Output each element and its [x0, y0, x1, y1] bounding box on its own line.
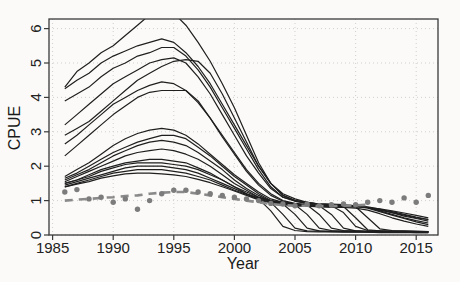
x-tick-label: 2000	[218, 239, 251, 256]
y-tick-label: 0	[27, 231, 44, 239]
model-line-run08	[65, 128, 429, 231]
observed-point	[86, 196, 91, 201]
x-tick-label: 2010	[339, 239, 372, 256]
x-axis-label: Year	[227, 255, 259, 273]
observed-point	[123, 196, 128, 201]
observed-point	[401, 195, 406, 200]
model-line-run03	[65, 48, 429, 232]
observed-point	[341, 201, 346, 206]
observed-point	[159, 191, 164, 196]
y-tick-label: 5	[27, 59, 44, 67]
observed-point	[74, 187, 79, 192]
observed-point	[292, 203, 297, 208]
observed-point	[62, 189, 67, 194]
observed-point	[183, 188, 188, 193]
observed-point	[195, 189, 200, 194]
observed-point	[220, 193, 225, 198]
observed-point	[329, 202, 334, 207]
observed-point	[304, 201, 309, 206]
observed-point	[256, 198, 261, 203]
observed-point	[111, 200, 116, 205]
model-line-run11	[65, 149, 429, 233]
y-tick-label: 3	[27, 128, 44, 136]
cpue-chart: 19851990199520002005201020150123456	[0, 0, 460, 282]
model-line-run10	[65, 140, 429, 232]
observed-point	[135, 207, 140, 212]
observed-point	[414, 200, 419, 205]
observed-point	[208, 191, 213, 196]
y-axis-label: CPUE	[6, 106, 24, 150]
y-tick-label: 4	[27, 93, 44, 101]
x-tick-label: 1990	[97, 239, 130, 256]
y-tick-label: 6	[27, 24, 44, 32]
x-tick-label: 2005	[278, 239, 311, 256]
observed-point	[377, 198, 382, 203]
observed-point	[244, 196, 249, 201]
observed-point	[171, 188, 176, 193]
x-tick-label: 1985	[36, 239, 69, 256]
axis-ticks	[44, 29, 416, 240]
observed-point	[317, 203, 322, 208]
observed-point	[353, 202, 358, 207]
cpue-figure: 19851990199520002005201020150123456 Year…	[0, 0, 460, 282]
x-tick-label: 2015	[400, 239, 433, 256]
observed-point	[147, 198, 152, 203]
model-line-run16	[65, 173, 429, 218]
observed-point	[426, 193, 431, 198]
observed-point	[389, 200, 394, 205]
y-tick-label: 2	[27, 162, 44, 170]
x-tick-label: 1995	[157, 239, 190, 256]
y-tick-label: 1	[27, 196, 44, 204]
observed-point	[232, 195, 237, 200]
observed-point	[98, 195, 103, 200]
observed-point	[268, 201, 273, 206]
observed-point	[280, 201, 285, 206]
observed-point	[365, 200, 370, 205]
